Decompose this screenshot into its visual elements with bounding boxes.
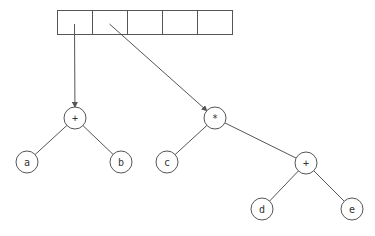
node-label: c <box>164 157 170 168</box>
tree-edge <box>83 126 113 155</box>
node-label: a <box>24 157 30 168</box>
tree-node-plus2: + <box>295 152 317 174</box>
node-label: b <box>118 157 124 168</box>
array-cell <box>93 11 128 35</box>
tree-edge <box>35 125 67 154</box>
tree-nodes: +ab*c+de <box>16 107 363 220</box>
array-cell <box>163 11 198 35</box>
node-label: d <box>259 204 265 215</box>
expression-tree-diagram: +ab*c+de <box>0 0 375 236</box>
tree-edge <box>314 171 344 201</box>
node-label: + <box>72 113 78 124</box>
tree-node-plus1: + <box>64 107 86 129</box>
array-pointers <box>75 24 207 111</box>
tree-edge <box>270 171 299 201</box>
array-cell <box>128 11 163 35</box>
tree-edge <box>225 123 296 158</box>
array-cell <box>198 11 233 35</box>
tree-edge <box>175 125 207 154</box>
tree-node-d: d <box>251 198 273 220</box>
tree-node-c: c <box>156 151 178 173</box>
tree-node-e: e <box>341 198 363 220</box>
node-label: * <box>212 113 218 124</box>
pointer-arrow <box>110 24 207 111</box>
node-label: e <box>349 204 355 215</box>
tree-node-times: * <box>204 107 226 129</box>
tree-node-a: a <box>16 151 38 173</box>
node-label: + <box>303 158 309 169</box>
tree-node-b: b <box>110 151 132 173</box>
pointer-array <box>58 11 233 35</box>
